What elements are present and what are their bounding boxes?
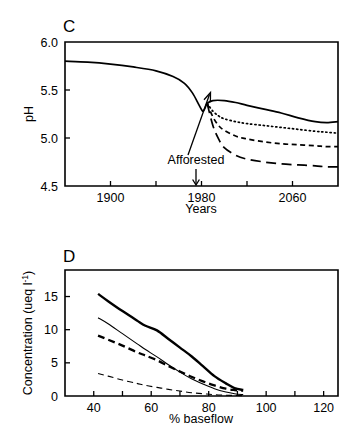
- y-tick-label: 15: [44, 290, 58, 304]
- panel-c-curves: [65, 61, 338, 167]
- x-tick-label: 40: [87, 401, 101, 415]
- y-tick-label: 5.5: [41, 84, 58, 98]
- panel-c-label: C: [63, 17, 75, 36]
- curve-long-dash: [207, 103, 338, 166]
- panel-c-y-axis-title: pH: [22, 106, 36, 122]
- panel-c: C 190019802060 4.55.05.56.0 Years pH Aff…: [22, 17, 338, 216]
- curve-solid: [65, 61, 338, 122]
- figure-svg: C 190019802060 4.55.05.56.0 Years pH Aff…: [0, 0, 356, 434]
- panel-d-label: D: [63, 247, 75, 266]
- panel-d-y-axis-title: Concentration (ueq l-1): [20, 271, 35, 395]
- curve-thick-dash: [98, 336, 243, 391]
- figure-container: C 190019802060 4.55.05.56.0 Years pH Aff…: [0, 0, 356, 434]
- curve-short-dash: [207, 103, 338, 146]
- afforested-annotation-label: Afforested: [168, 153, 225, 167]
- panel-d-y-tick-labels: 051015: [44, 290, 58, 403]
- x-tick-label: 2060: [279, 191, 307, 205]
- afforested-down-arrow-icon: [193, 169, 200, 185]
- x-tick-label: 60: [144, 401, 158, 415]
- curve-thick-solid: [98, 294, 243, 390]
- x-tick-label: 120: [313, 401, 334, 415]
- y-tick-label: 5: [51, 356, 58, 370]
- panel-d-y-axis-title-tail: ): [21, 271, 35, 275]
- afforested-pointer-arrow-icon: [188, 93, 211, 156]
- curve-thin-dash: [98, 373, 243, 395]
- x-tick-label: 1900: [97, 191, 125, 205]
- panel-d-y-axis-title-main: Concentration (ueq l: [21, 283, 35, 396]
- y-tick-label: 5.0: [41, 132, 58, 146]
- panel-d: D 406080100120 051015 % baseflow Concent…: [20, 247, 338, 426]
- panel-d-x-axis-title: % baseflow: [169, 412, 234, 426]
- y-tick-label: 6.0: [41, 36, 58, 50]
- x-tick-label: 100: [256, 401, 277, 415]
- panel-c-y-tick-labels: 4.55.05.56.0: [41, 36, 58, 194]
- curve-dotted: [207, 103, 338, 133]
- y-tick-label: 10: [44, 323, 58, 337]
- curve-thin-solid: [98, 318, 243, 395]
- y-tick-label: 4.5: [41, 180, 58, 194]
- panel-c-x-axis-title: Years: [185, 202, 217, 216]
- y-tick-label: 0: [51, 390, 58, 404]
- panel-d-frame: [65, 270, 338, 396]
- panel-d-curves: [98, 294, 243, 396]
